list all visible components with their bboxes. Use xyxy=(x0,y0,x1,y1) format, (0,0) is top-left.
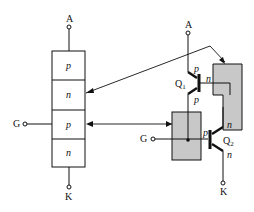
left-cathode-label: K xyxy=(65,191,73,202)
arrow-head-p-right xyxy=(166,121,172,127)
q2-emitter-label: n xyxy=(227,149,232,160)
q1-base-label: n xyxy=(206,73,211,84)
layer-label-p2: p xyxy=(65,119,71,130)
left-anode-label: A xyxy=(66,13,74,24)
q1-collector-label: p xyxy=(193,94,199,105)
arrow-head-p xyxy=(86,121,93,127)
right-anode-label: A xyxy=(185,19,193,30)
layer-label-p1: p xyxy=(65,60,71,71)
diagram-canvas: A K G p n p n Q1 p n p A G Q2 xyxy=(0,0,254,212)
shaded-p-region xyxy=(172,112,201,160)
left-gate-label: G xyxy=(13,118,20,129)
connection-arrows xyxy=(86,46,225,124)
q2-base-label: p xyxy=(202,127,208,138)
q2-label: Q2 xyxy=(223,135,234,148)
layer-label-n1: n xyxy=(66,89,71,100)
layer-label-n2: n xyxy=(66,147,71,158)
scr-diagram: A K G p n p n Q1 p n p A G Q2 xyxy=(0,0,254,212)
right-gate-label: G xyxy=(140,133,147,144)
arrow-head-n xyxy=(86,88,94,93)
q2-collector-label: n xyxy=(227,119,232,130)
q1-emitter-label: p xyxy=(193,63,199,74)
right-cathode-label: K xyxy=(220,186,228,197)
four-layer-stack xyxy=(23,25,85,189)
q1-label: Q1 xyxy=(175,78,186,91)
